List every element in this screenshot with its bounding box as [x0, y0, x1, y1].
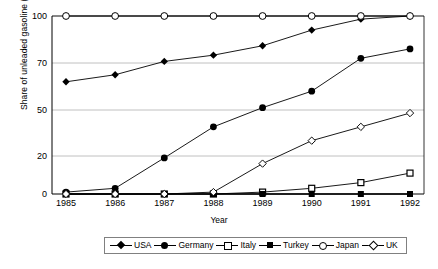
diamond-open-icon — [362, 240, 384, 250]
marker-square-filled — [358, 191, 364, 197]
chart-figure: Share of unleaded gasoline (%) Year 0205… — [0, 0, 438, 269]
legend-item-turkey[interactable]: Turkey — [259, 240, 312, 250]
marker-diamond-open — [259, 160, 266, 167]
legend-item-germany[interactable]: Germany — [154, 240, 216, 250]
marker-square-filled — [260, 191, 266, 197]
marker-diamond-filled — [62, 78, 69, 85]
marker-circle-open — [112, 13, 119, 20]
marker-diamond-open — [406, 109, 413, 116]
marker-square-filled — [309, 191, 315, 197]
marker-square-open — [407, 170, 413, 176]
x-tick-label: 1989 — [242, 198, 284, 208]
legend-label: UK — [384, 240, 401, 250]
chart-legend: USAGermanyItalyTurkeyJapanUK — [104, 237, 407, 254]
marker-diamond-filled — [210, 51, 217, 58]
x-tick-label: 1986 — [94, 198, 136, 208]
marker-square-filled — [407, 191, 413, 197]
circle-filled-icon — [154, 240, 176, 250]
marker-circle-open — [259, 13, 266, 20]
legend-item-usa[interactable]: USA — [110, 240, 154, 250]
x-tick-label: 1988 — [192, 198, 234, 208]
legend-label: Italy — [238, 240, 259, 250]
series-line — [66, 16, 410, 82]
plot-area — [52, 16, 424, 194]
legend-label: Turkey — [281, 240, 312, 250]
marker-circle-filled — [259, 104, 266, 111]
legend-item-uk[interactable]: UK — [362, 240, 401, 250]
series-germany — [63, 46, 414, 196]
marker-diamond-open — [357, 123, 364, 130]
marker-circle-open — [308, 13, 315, 20]
y-tick-label: 100 — [17, 12, 47, 21]
marker-circle-filled — [210, 123, 217, 130]
y-tick-label: 20 — [17, 152, 47, 161]
x-tick-label: 1985 — [45, 198, 87, 208]
series-japan — [63, 13, 414, 20]
marker-circle-open — [63, 13, 70, 20]
series-canvas — [52, 16, 424, 194]
y-tick-label: 50 — [17, 106, 47, 115]
legend-label: Germany — [176, 240, 216, 250]
marker-diamond-filled — [111, 71, 118, 78]
x-tick-label: 1992 — [389, 198, 431, 208]
y-tick-label: 0 — [17, 190, 47, 199]
marker-circle-open — [407, 13, 414, 20]
legend-item-italy[interactable]: Italy — [216, 240, 259, 250]
series-line — [66, 49, 410, 192]
x-tick-label: 1991 — [340, 198, 382, 208]
legend-item-japan[interactable]: Japan — [312, 240, 362, 250]
marker-square-open — [309, 185, 315, 191]
x-tick-label: 1987 — [143, 198, 185, 208]
series-usa — [62, 12, 413, 85]
square-filled-icon — [259, 240, 281, 250]
legend-label: Japan — [334, 240, 362, 250]
marker-circle-filled — [407, 46, 414, 53]
marker-circle-filled — [161, 155, 168, 162]
marker-circle-open — [357, 13, 364, 20]
circle-open-icon — [312, 240, 334, 250]
marker-circle-filled — [308, 88, 315, 95]
marker-square-open — [358, 180, 364, 186]
marker-circle-filled — [357, 55, 364, 62]
x-axis-title: Year — [0, 215, 438, 225]
marker-diamond-open — [308, 137, 315, 144]
square-open-icon — [216, 240, 238, 250]
y-tick-label: 70 — [17, 59, 47, 68]
marker-diamond-filled — [161, 58, 168, 65]
marker-circle-open — [210, 13, 217, 20]
x-tick-label: 1990 — [291, 198, 333, 208]
diamond-filled-icon — [110, 240, 132, 250]
marker-diamond-filled — [308, 26, 315, 33]
legend-label: USA — [132, 240, 154, 250]
marker-circle-open — [161, 13, 168, 20]
marker-diamond-filled — [259, 42, 266, 49]
